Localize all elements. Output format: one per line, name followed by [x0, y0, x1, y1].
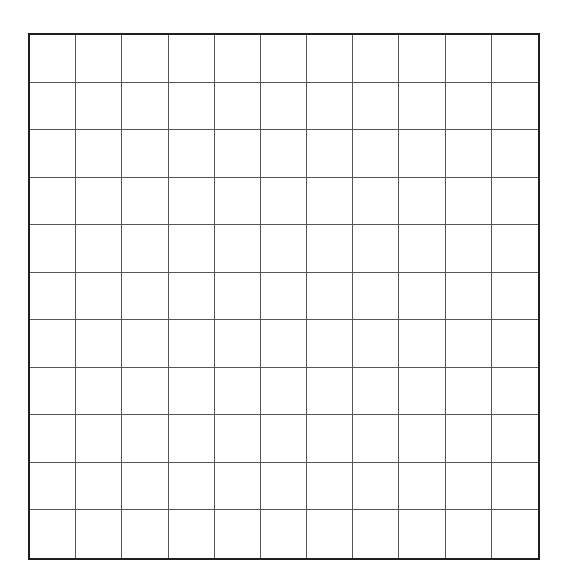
grid-cell: [76, 178, 122, 226]
grid-cell: [353, 415, 399, 463]
grid-cell: [353, 320, 399, 368]
grid-cell: [399, 273, 445, 321]
grid-cell: [169, 130, 215, 178]
grid-cell: [399, 510, 445, 558]
grid-cell: [122, 130, 168, 178]
grid-cell: [30, 510, 76, 558]
grid-cell: [307, 415, 353, 463]
grid-cell: [446, 415, 492, 463]
grid-cell: [353, 510, 399, 558]
grid-cell: [353, 130, 399, 178]
grid-cell: [492, 368, 538, 416]
grid-cell: [122, 320, 168, 368]
grid-cell: [30, 368, 76, 416]
grid-cell: [76, 415, 122, 463]
grid-cell: [399, 130, 445, 178]
grid-cell: [307, 368, 353, 416]
grid-cell: [215, 320, 261, 368]
grid-cell: [261, 225, 307, 273]
grid-cell: [76, 130, 122, 178]
grid-cell: [122, 368, 168, 416]
grid-cell: [30, 35, 76, 83]
square-grid: [28, 33, 540, 560]
grid-cell: [446, 368, 492, 416]
grid-cell: [261, 510, 307, 558]
grid-cell: [353, 35, 399, 83]
grid-cell: [399, 463, 445, 511]
grid-cell: [307, 510, 353, 558]
grid-cell: [122, 463, 168, 511]
grid-cell: [307, 320, 353, 368]
grid-cell: [353, 463, 399, 511]
grid-cell: [492, 320, 538, 368]
grid-cell: [446, 178, 492, 226]
grid-cell: [261, 320, 307, 368]
grid-cell: [76, 368, 122, 416]
grid-cell: [30, 130, 76, 178]
grid-cell: [215, 130, 261, 178]
grid-cell: [353, 225, 399, 273]
grid-cell: [446, 273, 492, 321]
grid-cell: [169, 273, 215, 321]
grid-cell: [446, 130, 492, 178]
grid-cell: [169, 35, 215, 83]
grid-cell: [446, 510, 492, 558]
grid-cell: [76, 225, 122, 273]
grid-cell: [76, 35, 122, 83]
grid-cell: [446, 83, 492, 131]
grid-cell: [169, 320, 215, 368]
grid-cell: [353, 368, 399, 416]
grid-cell: [215, 225, 261, 273]
grid-cell: [261, 463, 307, 511]
grid-cell: [122, 273, 168, 321]
grid-cell: [446, 35, 492, 83]
grid-cell: [399, 415, 445, 463]
grid-cell: [261, 415, 307, 463]
grid-cell: [446, 320, 492, 368]
grid-cell: [76, 320, 122, 368]
grid-cell: [169, 463, 215, 511]
grid-cell: [399, 83, 445, 131]
grid-cell: [30, 320, 76, 368]
grid-cell: [261, 273, 307, 321]
grid-cell: [492, 225, 538, 273]
grid-cell: [399, 178, 445, 226]
grid-cell: [122, 415, 168, 463]
grid-cell: [169, 225, 215, 273]
grid-cell: [399, 225, 445, 273]
grid-cell: [76, 83, 122, 131]
grid-cell: [307, 463, 353, 511]
grid-cell: [492, 463, 538, 511]
grid-cell: [169, 415, 215, 463]
grid-cell: [169, 178, 215, 226]
grid-cell: [307, 273, 353, 321]
grid-cell: [215, 510, 261, 558]
grid-cell: [122, 35, 168, 83]
grid-cell: [353, 273, 399, 321]
grid-cell: [215, 178, 261, 226]
grid-cell: [492, 83, 538, 131]
grid-cell: [30, 83, 76, 131]
grid-cell: [122, 510, 168, 558]
grid-cell: [215, 415, 261, 463]
grid-cell: [492, 510, 538, 558]
grid-cell: [30, 273, 76, 321]
grid-cell: [215, 368, 261, 416]
grid-cell: [261, 35, 307, 83]
grid-cell: [492, 178, 538, 226]
grid-cell: [492, 273, 538, 321]
grid-cell: [30, 225, 76, 273]
grid-cell: [353, 178, 399, 226]
grid-cell: [30, 463, 76, 511]
grid-cell: [169, 83, 215, 131]
grid-cell: [307, 35, 353, 83]
grid-cell: [169, 510, 215, 558]
grid-cell: [215, 463, 261, 511]
grid-cell: [353, 83, 399, 131]
grid-cell: [215, 83, 261, 131]
grid-cell: [215, 35, 261, 83]
grid-cell: [399, 368, 445, 416]
grid-cell: [399, 320, 445, 368]
grid-cell: [30, 415, 76, 463]
grid-cell: [307, 178, 353, 226]
